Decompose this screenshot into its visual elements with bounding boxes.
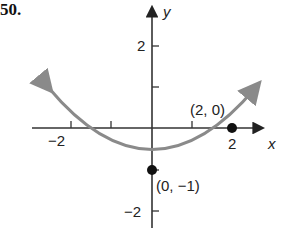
tick-label-y-2: 2 (137, 38, 145, 53)
x-axis-label: x (268, 136, 276, 151)
tick-label-y-neg2: −2 (124, 204, 141, 219)
point-2-0 (227, 123, 237, 133)
tick-label-x-2: 2 (228, 136, 236, 151)
y-axis-label: y (163, 4, 171, 19)
graph (0, 0, 281, 230)
tick-label-x-neg2: −2 (48, 133, 65, 148)
point-label-0-neg1: (0, −1) (156, 178, 200, 193)
point-0-neg1 (147, 165, 157, 175)
point-label-2-0: (2, 0) (190, 102, 225, 117)
